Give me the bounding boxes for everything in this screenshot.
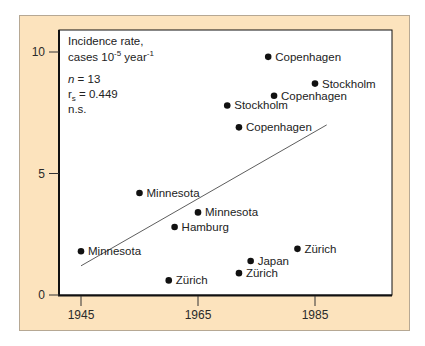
point-label: Copenhagen [246,121,312,133]
point-label: Stockholm [234,99,288,111]
data-point: Minnesota [136,187,200,199]
point-label: Copenhagen [281,90,347,102]
point-marker [247,258,254,265]
point-label: Japan [258,255,289,267]
point-label: Copenhagen [275,51,341,63]
x-tick-label: 1965 [185,308,212,322]
point-marker [271,92,278,99]
y-axis-title-line2: cases 10-5 year-1 [68,49,154,63]
point-marker [195,209,202,216]
point-marker [136,190,143,197]
point-label: Hamburg [182,221,229,233]
point-marker [78,248,85,255]
point-label: Zürich [246,267,278,279]
significance-annotation: n.s. [68,103,87,115]
n-annotation: n = 13 [68,73,100,85]
data-point: Stockholm [312,78,376,90]
point-marker [224,102,231,109]
data-point: Stockholm [224,99,288,111]
point-label: Stockholm [322,78,376,90]
y-axis-title-line1: Incidence rate, [68,35,143,47]
y-tick-label: 5 [38,167,45,181]
x-tick-label: 1985 [302,308,329,322]
point-label: Minnesota [205,206,259,218]
point-label: Minnesota [147,187,201,199]
point-marker [165,277,172,284]
y-tick-label: 0 [38,288,45,302]
x-tick-label: 1945 [68,308,95,322]
point-label: Zürich [176,274,208,286]
y-tick-label: 10 [32,45,46,59]
point-marker [236,124,243,131]
point-label: Zürich [304,243,336,255]
data-point: Minnesota [195,206,259,218]
data-point: Copenhagen [236,121,312,133]
point-marker [294,246,301,253]
data-point: Copenhagen [265,51,341,63]
data-point: Minnesota [78,245,142,257]
point-marker [236,270,243,277]
point-marker [171,224,178,231]
point-marker [265,54,272,61]
scatter-chart: 0510194519651985 CopenhagenStockholmCope… [0,0,425,346]
point-label: Minnesota [88,245,142,257]
point-marker [312,80,319,87]
